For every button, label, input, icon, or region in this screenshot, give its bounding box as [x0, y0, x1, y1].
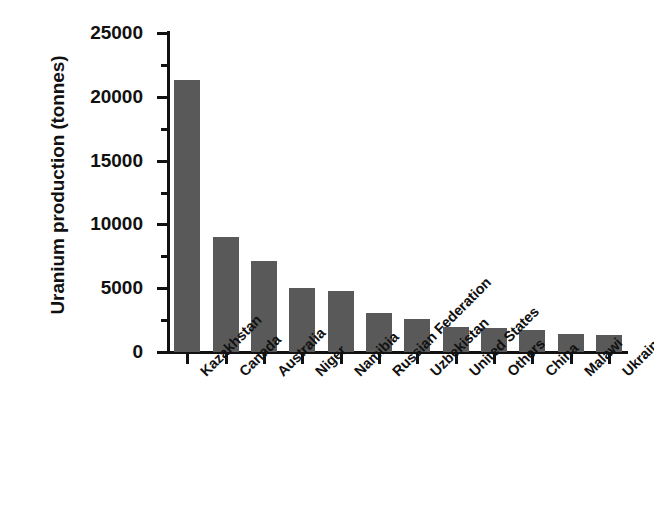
bar — [174, 80, 200, 352]
x-tick-label: United States — [466, 368, 477, 379]
y-tick-minor — [161, 192, 168, 195]
x-tick-label: Australia — [274, 368, 285, 379]
x-tick-label: Uzbekistan — [427, 368, 438, 379]
x-tick-label: Malawi — [581, 368, 592, 379]
x-tick — [186, 354, 189, 364]
y-tick-label: 10000 — [90, 213, 143, 235]
y-tick-minor — [161, 128, 168, 131]
y-tick-major: 15000 — [157, 160, 168, 163]
plot-area: 0500010000150002000025000 — [168, 33, 628, 352]
y-tick-label: 5000 — [101, 277, 143, 299]
y-tick-label: 20000 — [90, 86, 143, 108]
y-tick-minor — [161, 64, 168, 67]
x-tick-label: Ukraine — [619, 368, 630, 379]
bar-chart-figure: Uranium production (tonnes) 050001000015… — [0, 0, 654, 525]
y-tick-major: 10000 — [157, 223, 168, 226]
x-tick-label: Kazakhstan — [197, 368, 208, 379]
y-tick-major: 5000 — [157, 287, 168, 290]
y-tick-minor — [161, 319, 168, 322]
x-tick-label: Russian Federation — [389, 368, 400, 379]
y-axis-title: Uranium production (tonnes) — [38, 15, 78, 355]
y-tick-minor — [161, 255, 168, 258]
x-tick-label: Others — [504, 368, 515, 379]
y-tick-label: 0 — [132, 341, 143, 363]
x-tick-label: Canada — [236, 368, 247, 379]
y-tick-label: 15000 — [90, 150, 143, 172]
y-tick-major: 25000 — [157, 32, 168, 35]
y-tick-major: 20000 — [157, 96, 168, 99]
x-tick-label: Namibia — [351, 368, 362, 379]
x-tick-label: Niger — [312, 368, 323, 379]
y-tick-label: 25000 — [90, 22, 143, 44]
y-tick-major: 0 — [157, 351, 168, 354]
bar — [328, 291, 354, 352]
x-tick-label: China — [542, 368, 553, 379]
